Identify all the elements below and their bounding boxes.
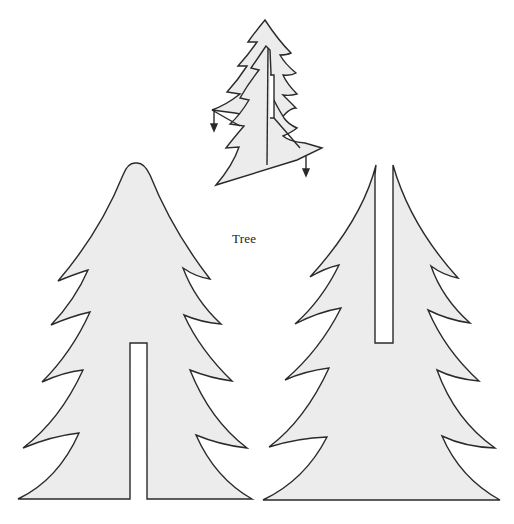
tree-piece-with-top-slot [263, 165, 500, 500]
assembled-center-line [267, 48, 268, 165]
down-arrow-left-icon [211, 111, 217, 131]
tree-piece-with-bottom-slot [18, 163, 252, 499]
diagram-caption: Tree [232, 231, 256, 247]
down-arrow-right-icon [303, 155, 309, 176]
assembled-slot [270, 75, 274, 118]
assembled-tree-illustration [211, 20, 322, 185]
tree-template-diagram: Tree [0, 0, 514, 524]
